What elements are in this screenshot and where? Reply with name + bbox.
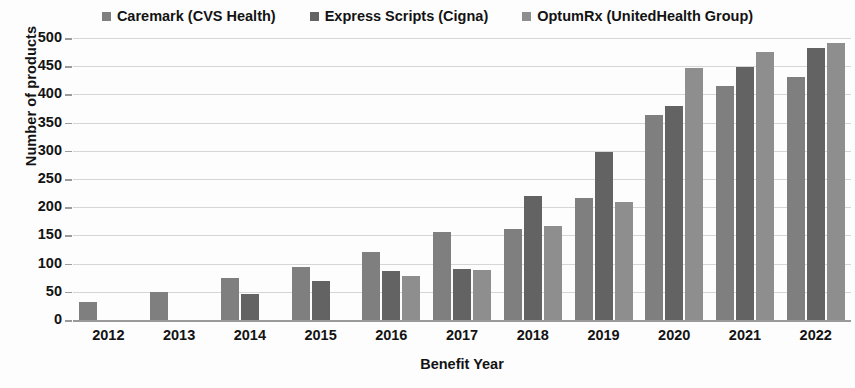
- bar-2022-series-1: [807, 48, 825, 320]
- y-tick-mark-200: [65, 207, 72, 209]
- y-tick-label-300: 300: [2, 142, 62, 158]
- y-tick-mark-150: [65, 235, 72, 237]
- bar-2017-series-1: [453, 269, 471, 320]
- bar-2019-series-1: [595, 152, 613, 320]
- bar-group-2022: [780, 38, 851, 320]
- y-tick-mark-0: [65, 320, 72, 322]
- y-tick-mark-300: [65, 151, 72, 153]
- bar-group-2021: [710, 38, 781, 320]
- bar-2016-series-2: [402, 276, 420, 320]
- y-tick-label-250: 250: [2, 170, 62, 186]
- bar-2021-series-1: [736, 67, 754, 320]
- bar-group-2017: [427, 38, 498, 320]
- bar-group-2020: [639, 38, 710, 320]
- bar-2013-series-0: [150, 292, 168, 320]
- x-axis-title: Benefit Year: [73, 356, 851, 372]
- bar-2016-series-0: [362, 252, 380, 320]
- y-tick-label-200: 200: [2, 198, 62, 214]
- y-tick-label-100: 100: [2, 255, 62, 271]
- y-tick-mark-500: [65, 38, 72, 40]
- x-axis-label-2016: 2016: [356, 327, 427, 349]
- x-axis-label-2020: 2020: [639, 327, 710, 349]
- bar-2015-series-1: [312, 281, 330, 320]
- y-tick-label-450: 450: [2, 57, 62, 73]
- legend-swatch-optumrx: [522, 12, 531, 21]
- legend-item-caremark: Caremark (CVS Health): [102, 8, 276, 24]
- x-axis-label-2022: 2022: [780, 327, 851, 349]
- y-tick-mark-250: [65, 179, 72, 181]
- legend-swatch-caremark: [102, 12, 111, 21]
- x-axis-label-2021: 2021: [710, 327, 781, 349]
- y-tick-mark-400: [65, 94, 72, 96]
- bar-2020-series-2: [685, 68, 703, 320]
- bar-2014-series-0: [221, 278, 239, 320]
- bar-groups: [73, 38, 851, 320]
- x-axis-label-2014: 2014: [214, 327, 285, 349]
- bar-2015-series-0: [292, 267, 310, 320]
- x-axis-label-2015: 2015: [285, 327, 356, 349]
- bar-2018-series-1: [524, 196, 542, 320]
- chart-legend: Caremark (CVS Health) Express Scripts (C…: [0, 4, 855, 28]
- y-tick-label-0: 0: [2, 311, 62, 327]
- bar-group-2013: [144, 38, 215, 320]
- bar-group-2012: [73, 38, 144, 320]
- legend-label-optumrx: OptumRx (UnitedHealth Group): [537, 8, 753, 24]
- bar-2017-series-2: [473, 270, 491, 320]
- y-tick-mark-50: [65, 292, 72, 294]
- bar-group-2018: [497, 38, 568, 320]
- legend-label-express-scripts: Express Scripts (Cigna): [325, 8, 489, 24]
- bar-2014-series-1: [241, 294, 259, 321]
- legend-item-express-scripts: Express Scripts (Cigna): [310, 8, 489, 24]
- y-tick-mark-450: [65, 66, 72, 68]
- bar-2018-series-2: [544, 226, 562, 320]
- y-tick-label-150: 150: [2, 226, 62, 242]
- legend-item-optumrx: OptumRx (UnitedHealth Group): [522, 8, 753, 24]
- legend-swatch-express-scripts: [310, 12, 319, 21]
- x-axis-label-2019: 2019: [568, 327, 639, 349]
- bar-2017-series-0: [433, 232, 451, 320]
- y-tick-mark-350: [65, 123, 72, 125]
- bar-2018-series-0: [504, 229, 522, 320]
- plot-area: 050100150200250300350400450500: [73, 38, 851, 320]
- bar-2021-series-2: [756, 52, 774, 320]
- bar-group-2014: [214, 38, 285, 320]
- bar-2022-series-0: [787, 77, 805, 320]
- legend-label-caremark: Caremark (CVS Health): [117, 8, 276, 24]
- x-axis-label-2018: 2018: [497, 327, 568, 349]
- bar-2019-series-0: [575, 198, 593, 320]
- bar-chart: Caremark (CVS Health) Express Scripts (C…: [0, 0, 855, 388]
- x-axis-label-2012: 2012: [73, 327, 144, 349]
- bar-2019-series-2: [615, 202, 633, 320]
- bar-group-2019: [568, 38, 639, 320]
- x-axis-label-2013: 2013: [144, 327, 215, 349]
- gridline-0: [73, 320, 851, 322]
- x-axis-label-2017: 2017: [427, 327, 498, 349]
- y-tick-label-350: 350: [2, 114, 62, 130]
- bar-2016-series-1: [382, 271, 400, 320]
- bar-2020-series-0: [645, 115, 663, 320]
- bar-group-2015: [285, 38, 356, 320]
- bar-2020-series-1: [665, 106, 683, 320]
- bar-2021-series-0: [716, 86, 734, 320]
- bar-2012-series-0: [79, 302, 97, 320]
- y-tick-mark-100: [65, 264, 72, 266]
- y-tick-label-400: 400: [2, 85, 62, 101]
- bar-2022-series-2: [827, 43, 845, 320]
- y-tick-label-50: 50: [2, 283, 62, 299]
- y-tick-label-500: 500: [2, 29, 62, 45]
- bar-group-2016: [356, 38, 427, 320]
- x-axis-labels: 2012201320142015201620172018201920202021…: [73, 327, 851, 349]
